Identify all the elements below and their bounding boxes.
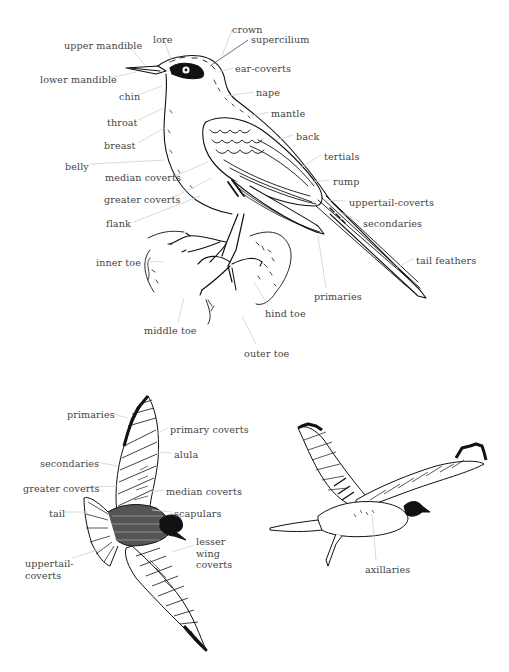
label-primaries-flight: primaries — [67, 409, 115, 420]
label-mantle: mantle — [271, 108, 305, 119]
label-supercilium: supercilium — [251, 34, 309, 45]
label-secondaries: secondaries — [363, 218, 422, 229]
label-median-coverts-flight: median coverts — [166, 486, 242, 497]
label-secondaries-flight: secondaries — [40, 458, 99, 469]
label-line: uppertail- — [25, 558, 85, 570]
label-ear-coverts: ear-coverts — [235, 63, 291, 74]
label-tail-feathers: tail feathers — [416, 255, 476, 266]
label-belly: belly — [65, 161, 89, 172]
label-median-coverts: median coverts — [105, 172, 181, 183]
label-line: coverts — [25, 570, 85, 582]
label-greater-coverts: greater coverts — [104, 194, 180, 205]
label-alula: alula — [174, 449, 198, 460]
bird-topography-diagram: crown lore supercilium upper mandible ea… — [0, 0, 509, 672]
label-back: back — [296, 131, 319, 142]
label-line: lesser — [196, 536, 236, 548]
label-tertials: tertials — [324, 151, 360, 162]
label-throat: throat — [107, 117, 138, 128]
label-tail: tail — [49, 508, 65, 519]
label-middle-toe: middle toe — [144, 325, 197, 336]
label-uppertail-coverts: uppertail-coverts — [349, 197, 434, 208]
label-primary-coverts: primary coverts — [170, 424, 249, 435]
label-lesser-wing-coverts: lesser wing coverts — [196, 536, 236, 571]
label-hind-toe: hind toe — [265, 308, 306, 319]
label-lore: lore — [153, 34, 173, 45]
label-nape: nape — [256, 87, 280, 98]
label-breast: breast — [104, 140, 136, 151]
label-line: coverts — [196, 559, 236, 571]
flying-bird-underside-drawing — [270, 424, 486, 566]
label-flank: flank — [106, 218, 131, 229]
label-uppertail-coverts-flight: uppertail- coverts — [25, 558, 85, 581]
label-inner-toe: inner toe — [96, 257, 141, 268]
label-outer-toe: outer toe — [244, 348, 289, 359]
label-axillaries: axillaries — [365, 564, 410, 575]
label-chin: chin — [119, 91, 140, 102]
label-greater-coverts-flight: greater coverts — [23, 483, 99, 494]
label-upper-mandible: upper mandible — [64, 40, 142, 51]
label-scapulars: scapulars — [174, 508, 222, 519]
label-line: wing — [196, 548, 236, 560]
label-primaries: primaries — [314, 291, 362, 302]
label-lower-mandible: lower mandible — [40, 74, 117, 85]
label-rump: rump — [333, 176, 359, 187]
